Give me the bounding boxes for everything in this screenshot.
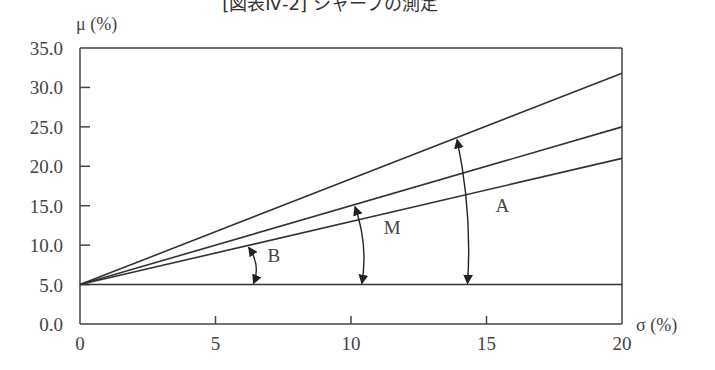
y-tick-label: 15.0 bbox=[30, 196, 63, 217]
y-axis-label: μ (%) bbox=[76, 14, 117, 35]
x-tick-label: 15 bbox=[477, 333, 496, 354]
y-tick-label: 20.0 bbox=[30, 156, 63, 177]
y-tick-label: 30.0 bbox=[30, 77, 63, 98]
plot-frame bbox=[80, 48, 622, 324]
series-line-B bbox=[80, 158, 622, 284]
chart-canvas: [図表Ⅳ-2] シャープの測定 μ (%) σ (%) 0.05.010.015… bbox=[0, 0, 715, 370]
x-tick-label: 0 bbox=[75, 333, 85, 354]
annotation-label-M: M bbox=[384, 217, 401, 238]
chart-title: [図表Ⅳ-2] シャープの測定 bbox=[222, 0, 437, 14]
y-tick-label: 10.0 bbox=[30, 235, 63, 256]
series-lines bbox=[80, 73, 622, 284]
x-axis-ticks: 05101520 bbox=[75, 316, 631, 354]
series-line-A bbox=[80, 73, 622, 284]
y-tick-label: 0.0 bbox=[39, 314, 63, 335]
y-tick-label: 35.0 bbox=[30, 38, 63, 59]
y-axis-ticks: 0.05.010.015.020.025.030.035.0 bbox=[30, 38, 90, 335]
y-tick-label: 5.0 bbox=[39, 275, 63, 296]
x-tick-label: 20 bbox=[613, 333, 632, 354]
x-axis-label: σ (%) bbox=[636, 315, 677, 336]
annotation-label-B: B bbox=[267, 245, 280, 266]
annotation-label-A: A bbox=[496, 195, 510, 216]
x-tick-label: 10 bbox=[342, 333, 361, 354]
x-tick-label: 5 bbox=[211, 333, 221, 354]
angle-arrow-B bbox=[249, 247, 257, 283]
y-tick-label: 25.0 bbox=[30, 117, 63, 138]
series-line-M bbox=[80, 127, 622, 285]
angle-annotations: BMA bbox=[249, 140, 510, 284]
angle-arrow-A bbox=[457, 140, 469, 284]
